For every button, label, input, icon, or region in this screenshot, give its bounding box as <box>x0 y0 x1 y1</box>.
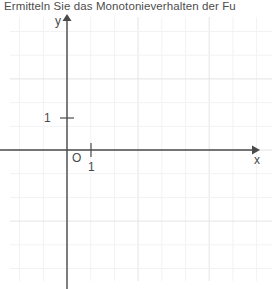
exercise-prompt-text: Ermitteln Sie das Monotonieverhalten der… <box>4 0 279 13</box>
coordinate-grid-svg: x y O 1 1 <box>0 14 279 289</box>
y-axis-label: y <box>55 14 61 28</box>
x-axis-label: x <box>254 153 260 167</box>
y-tick-label-1: 1 <box>44 111 51 125</box>
grid-lines-vertical <box>20 17 257 281</box>
y-axis-arrow <box>63 14 72 21</box>
origin-label: O <box>72 151 81 165</box>
exercise-figure-page: Ermitteln Sie das Monotonieverhalten der… <box>0 0 279 289</box>
coordinate-system-plot: x y O 1 1 <box>0 14 279 289</box>
x-tick-label-1: 1 <box>88 160 95 174</box>
